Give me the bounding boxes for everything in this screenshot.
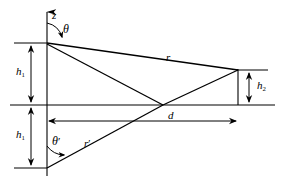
h1-lower-label: h1 xyxy=(16,129,25,142)
image-ray-label: r′ xyxy=(84,138,91,149)
distance-d-label: d xyxy=(168,110,174,121)
theta-prime-mark: ′ xyxy=(58,135,61,147)
h1-upper-subscript: 1 xyxy=(22,71,25,78)
incident-ray-segment xyxy=(47,44,163,105)
figure-container: z θ θ′ r r′ d h1 h1 h2 xyxy=(0,0,281,183)
theta-prime-label: θ′ xyxy=(52,135,60,147)
two-ray-geometry-diagram xyxy=(0,0,281,183)
reflected-ray-segment xyxy=(163,70,238,105)
h1-upper-label: h1 xyxy=(16,66,25,79)
image-ray-r-prime-line xyxy=(47,105,163,168)
direct-ray-r-line xyxy=(47,43,238,70)
theta-angle-arc xyxy=(47,23,62,37)
h2-subscript: 2 xyxy=(263,85,266,92)
direct-ray-label: r xyxy=(166,52,170,63)
r-prime-mark: ′ xyxy=(88,138,90,149)
z-axis-label: z xyxy=(52,10,56,21)
theta-label: θ xyxy=(63,23,69,35)
h1-lower-subscript: 1 xyxy=(22,134,25,141)
h2-label: h2 xyxy=(257,80,266,93)
